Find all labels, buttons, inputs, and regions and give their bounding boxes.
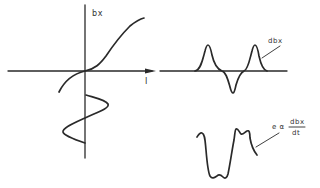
flux-pulse-waveform [195,45,267,93]
dbx-leader-line [262,46,280,58]
voltage-plot: e α dbx dt [197,118,305,178]
dbx-label: dbx [268,37,283,45]
magnetization-curve [59,18,144,92]
magnetic-saturation-diagram: bx I dbx e α dbx dt [0,0,320,188]
flux-derivative-plot: dbx [160,37,287,93]
voltage-leader-line [256,133,279,147]
bh-plot: bx I [8,5,156,158]
induced-voltage-waveform [197,129,257,178]
y-axis-label: bx [92,9,103,18]
x-axis-label: I [145,77,148,86]
voltage-label-prefix: e α [272,123,285,131]
x-axis-arrowhead-icon [145,69,156,74]
voltage-label-denominator: dt [292,129,300,137]
voltage-label-numerator: dbx [290,118,305,126]
